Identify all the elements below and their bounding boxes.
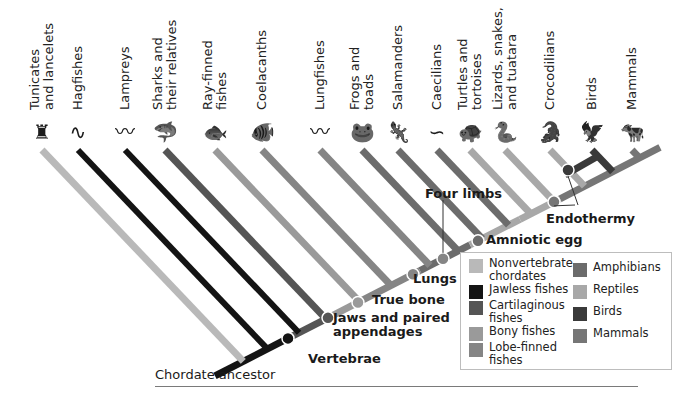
ray-finned-fish-icon: 🐟: [201, 118, 229, 146]
snake-icon: 🐍: [491, 118, 519, 146]
legend-label-line: Amphibians: [593, 261, 661, 274]
legend-swatch: [573, 263, 587, 277]
legend-swatch: [469, 259, 483, 273]
taxon-label-line: Salamanders: [391, 25, 405, 110]
legend-label: Bony fishes: [489, 325, 555, 338]
taxon-label: Frogs andtoads: [348, 47, 376, 110]
node-four-limbs: [437, 253, 449, 265]
taxon-label-line: and tuatara: [505, 7, 519, 110]
node-true-bone: [352, 296, 364, 308]
baseline-rule: [155, 386, 638, 387]
legend-swatch: [573, 329, 587, 343]
taxon-label-line: Sharks and: [151, 20, 165, 110]
trait-label-jaws-line1: Jaws and paired: [333, 311, 450, 325]
lungfish-icon: 〰: [306, 118, 334, 146]
legend-label-line: Bony fishes: [489, 325, 555, 338]
legend-label: Cartilaginousfishes: [489, 299, 565, 325]
trait-label-true-bone: True bone: [372, 293, 445, 307]
branch-tunicates-and-lancelets: [42, 150, 243, 361]
taxon-label: Lungfishes: [313, 40, 327, 110]
legend-item-jawless: Jawless fishes: [469, 283, 568, 299]
node-amniotic-egg: [472, 235, 484, 247]
taxon-label: Mammals: [625, 47, 639, 110]
taxon-label: Lizards, snakes,and tuatara: [491, 7, 519, 110]
taxon-label-line: tortoises: [470, 38, 484, 110]
taxon-label-line: Lampreys: [118, 46, 132, 110]
trait-label-jaws-line2: appendages: [333, 325, 422, 339]
taxon-label: Coelacanths: [255, 30, 269, 110]
legend: NonvertebratechordatesJawless fishesCart…: [460, 252, 672, 370]
taxon-label: Caecilians: [430, 44, 444, 110]
branch-lampreys: [125, 150, 299, 333]
taxon-label: Tunicatesand lancelets: [28, 23, 56, 110]
legend-swatch: [573, 307, 587, 321]
legend-label: Reptiles: [593, 283, 639, 296]
legend-swatch: [469, 343, 483, 357]
taxon-label-line: Tunicates: [28, 23, 42, 110]
taxon-label-line: Birds: [585, 77, 599, 110]
taxon-label: Ray-finnedfishes: [201, 40, 229, 110]
legend-swatch: [469, 285, 483, 299]
legend-label-line: Jawless fishes: [489, 283, 568, 296]
taxon-label-line: fishes: [215, 40, 229, 110]
phylogenetic-tree: Tunicatesand lanceletsHagfishesLampreysS…: [0, 0, 678, 407]
taxon-label-line: Mammals: [625, 47, 639, 110]
legend-label: Mammals: [593, 327, 649, 340]
legend-item-nonvertebrate: Nonvertebratechordates: [469, 257, 573, 283]
legend-label: Nonvertebratechordates: [489, 257, 573, 283]
taxon-label-line: Hagfishes: [71, 46, 85, 110]
hagfish-icon: ∿: [64, 118, 92, 146]
legend-item-cartilaginous: Cartilaginousfishes: [469, 299, 565, 325]
legend-label: Lobe-finnedfishes: [489, 341, 557, 367]
lamprey-icon: 〰: [111, 118, 139, 146]
legend-item-mammal: Mammals: [573, 327, 649, 343]
bird-icon: 🦅: [578, 118, 606, 146]
legend-swatch: [469, 301, 483, 315]
turtle-icon: 🐢: [456, 118, 484, 146]
branch-mammals: [632, 150, 640, 158]
shark-icon: 🦈: [151, 118, 179, 146]
taxon-label-line: Frogs and: [348, 47, 362, 110]
legend-label-line: Birds: [593, 305, 622, 318]
legend-label-line: fishes: [489, 354, 557, 367]
taxon-label: Turtles andtortoises: [456, 38, 484, 110]
legend-label-line: Reptiles: [593, 283, 639, 296]
taxon-label-line: toads: [362, 47, 376, 110]
caecilian-icon: ∽: [423, 118, 451, 146]
taxon-label: Sharks andtheir relatives: [151, 20, 179, 110]
coelacanth-icon: 🐠: [248, 118, 276, 146]
taxon-label-line: Ray-finned: [201, 40, 215, 110]
taxon-label-line: Crocodilians: [543, 31, 557, 110]
legend-label: Amphibians: [593, 261, 661, 274]
chordate-ancestor-label: Chordate ancestor: [155, 367, 275, 382]
trait-label-four-limbs: Four limbs: [425, 187, 502, 201]
salamander-icon: 🦎: [384, 118, 412, 146]
taxon-label-line: Caecilians: [430, 44, 444, 110]
legend-item-amphibian: Amphibians: [573, 261, 661, 277]
tunicate-icon: ♜: [28, 118, 56, 146]
legend-item-bony: Bony fishes: [469, 325, 555, 341]
taxon-label: Salamanders: [391, 25, 405, 110]
taxon-label: Hagfishes: [71, 46, 85, 110]
trait-label-vertebrae: Vertebrae: [308, 352, 381, 366]
legend-swatch: [573, 285, 587, 299]
cow-icon: 🐄: [618, 118, 646, 146]
taxon-label-line: Lungfishes: [313, 40, 327, 110]
legend-item-lobe: Lobe-finnedfishes: [469, 341, 557, 367]
legend-item-bird: Birds: [573, 305, 622, 321]
taxon-label: Crocodilians: [543, 31, 557, 110]
taxon-label-line: Turtles and: [456, 38, 470, 110]
taxon-label: Lampreys: [118, 46, 132, 110]
taxon-label-line: and lancelets: [42, 23, 56, 110]
trait-label-endothermy: Endothermy: [546, 212, 635, 226]
legend-label-line: Mammals: [593, 327, 649, 340]
legend-item-reptile: Reptiles: [573, 283, 639, 299]
taxon-label-line: Coelacanths: [255, 30, 269, 110]
frog-icon: 🐸: [348, 118, 376, 146]
branch-sharks-and-their-relatives: [165, 150, 326, 319]
node-endothermy-bird: [562, 164, 574, 176]
taxon-label-line: Lizards, snakes,: [491, 7, 505, 110]
node-vertebrae: [282, 332, 294, 344]
branch-turtles-and-tortoises: [470, 150, 531, 214]
trait-label-amniotic-egg: Amniotic egg: [486, 233, 583, 247]
